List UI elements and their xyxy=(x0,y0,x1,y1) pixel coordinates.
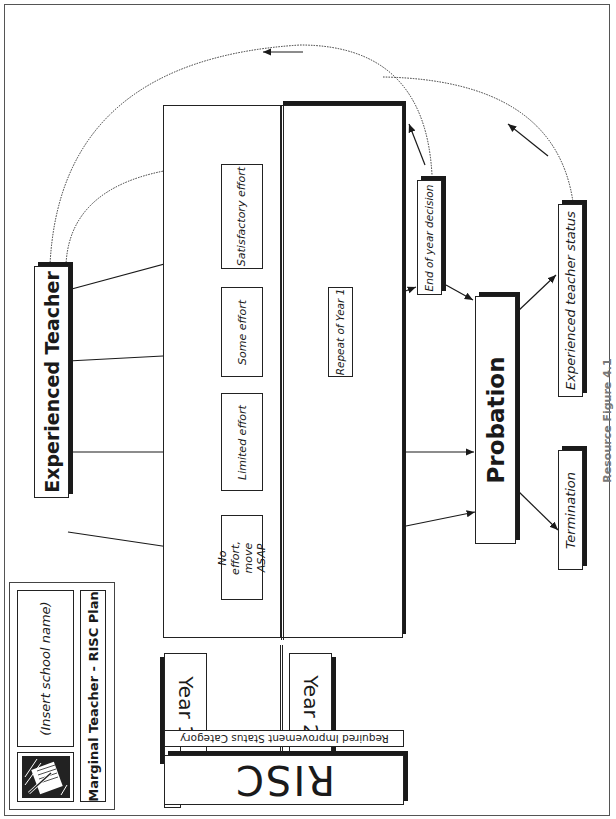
node-repeat-year-1: Repeat of Year 1 xyxy=(328,287,353,377)
node-experienced-teacher: Experienced Teacher xyxy=(34,266,69,498)
node-experienced-teacher-status: Experienced teacher status xyxy=(558,204,583,397)
school-name-field[interactable]: (Insert school name) xyxy=(17,590,74,747)
node-experienced-teacher-label: Experienced Teacher xyxy=(41,271,63,493)
node-satisfactory-effort: Satisfactory effort xyxy=(221,164,263,269)
node-termination: Termination xyxy=(558,450,583,570)
node-some-effort: Some effort xyxy=(221,287,263,377)
node-end-of-year-decision: End of year decision xyxy=(417,180,442,295)
node-no-effort: No effort, move ASAP xyxy=(221,515,263,600)
lane-divider xyxy=(281,105,284,640)
node-limited-effort: Limited effort xyxy=(221,393,263,491)
node-probation: Probation xyxy=(475,296,516,544)
pen-and-papers-icon xyxy=(21,755,71,799)
risc-acronym: RISC xyxy=(164,755,404,805)
risc-full-name-box: Required Improvement Status Category xyxy=(164,730,404,747)
plan-title: Marginal Teacher - RISC Plan xyxy=(80,590,106,802)
logo xyxy=(17,752,74,802)
figure-caption: Resource Figure 4.1 xyxy=(598,330,616,510)
